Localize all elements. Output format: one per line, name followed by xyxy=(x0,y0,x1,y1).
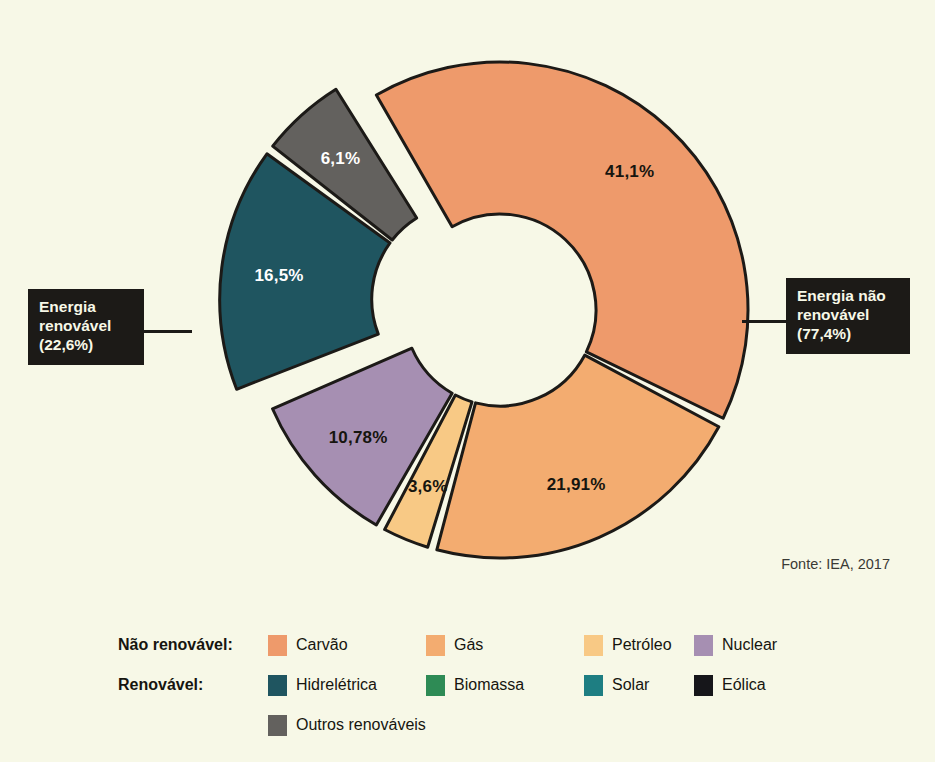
legend-swatch-icon xyxy=(426,635,445,656)
legend-swatch-icon xyxy=(426,675,445,696)
legend-row-nao-renovavel: Não renovável: Carvão Gás Petróleo Nucle… xyxy=(118,630,918,660)
slice-value-label: 6,1% xyxy=(321,149,361,168)
slice-value-label: 21,91% xyxy=(547,475,606,494)
legend-row-title: Não renovável: xyxy=(118,636,268,654)
slice-value-label: 10,78% xyxy=(329,428,388,447)
legend-item-carvao[interactable]: Carvão xyxy=(268,635,426,656)
legend-item-gas[interactable]: Gás xyxy=(426,635,584,656)
legend-item-label: Biomassa xyxy=(454,676,524,694)
legend-item-label: Outros renováveis xyxy=(296,716,426,734)
legend-swatch-icon xyxy=(268,675,287,696)
legend-item-outros-renovaveis[interactable]: Outros renováveis xyxy=(268,715,426,736)
legend-row-extra: Outros renováveis xyxy=(118,710,918,740)
chart-canvas: 41,1%21,91%3,6%10,78%16,5%6,1% Energia r… xyxy=(0,0,935,762)
source-note: Fonte: IEA, 2017 xyxy=(690,556,890,572)
legend-item-nuclear[interactable]: Nuclear xyxy=(694,635,824,656)
donut-slices xyxy=(220,62,748,558)
slice-value-label: 3,6% xyxy=(408,477,448,496)
legend-item-label: Gás xyxy=(454,636,483,654)
legend-item-label: Nuclear xyxy=(722,636,777,654)
legend-item-label: Petróleo xyxy=(612,636,672,654)
donut-slice-carv-o[interactable] xyxy=(376,62,748,418)
legend-item-label: Carvão xyxy=(296,636,348,654)
legend-swatch-icon xyxy=(694,635,713,656)
legend-swatch-icon xyxy=(584,675,603,696)
legend-item-eolica[interactable]: Eólica xyxy=(694,675,824,696)
legend-item-label: Hidrelétrica xyxy=(296,676,377,694)
callout-leader-renewable xyxy=(144,330,192,333)
callout-leader-non-renewable xyxy=(742,320,788,323)
legend-item-label: Solar xyxy=(612,676,649,694)
legend-item-biomassa[interactable]: Biomassa xyxy=(426,675,584,696)
chart-legend: Não renovável: Carvão Gás Petróleo Nucle… xyxy=(0,622,935,762)
legend-swatch-icon xyxy=(584,635,603,656)
slice-value-label: 41,1% xyxy=(605,162,654,181)
legend-item-label: Eólica xyxy=(722,676,766,694)
legend-row-title: Renovável: xyxy=(118,676,268,694)
callout-renewable: Energia renovável (22,6%) xyxy=(28,289,144,365)
legend-swatch-icon xyxy=(268,635,287,656)
legend-row-renovavel: Renovável: Hidrelétrica Biomassa Solar E… xyxy=(118,670,918,700)
legend-item-petroleo[interactable]: Petróleo xyxy=(584,635,694,656)
legend-swatch-icon xyxy=(694,675,713,696)
legend-swatch-icon xyxy=(268,715,287,736)
slice-value-label: 16,5% xyxy=(254,266,303,285)
legend-item-hidreletrica[interactable]: Hidrelétrica xyxy=(268,675,426,696)
callout-non-renewable: Energia não renovável (77,4%) xyxy=(786,278,910,354)
legend-item-solar[interactable]: Solar xyxy=(584,675,694,696)
